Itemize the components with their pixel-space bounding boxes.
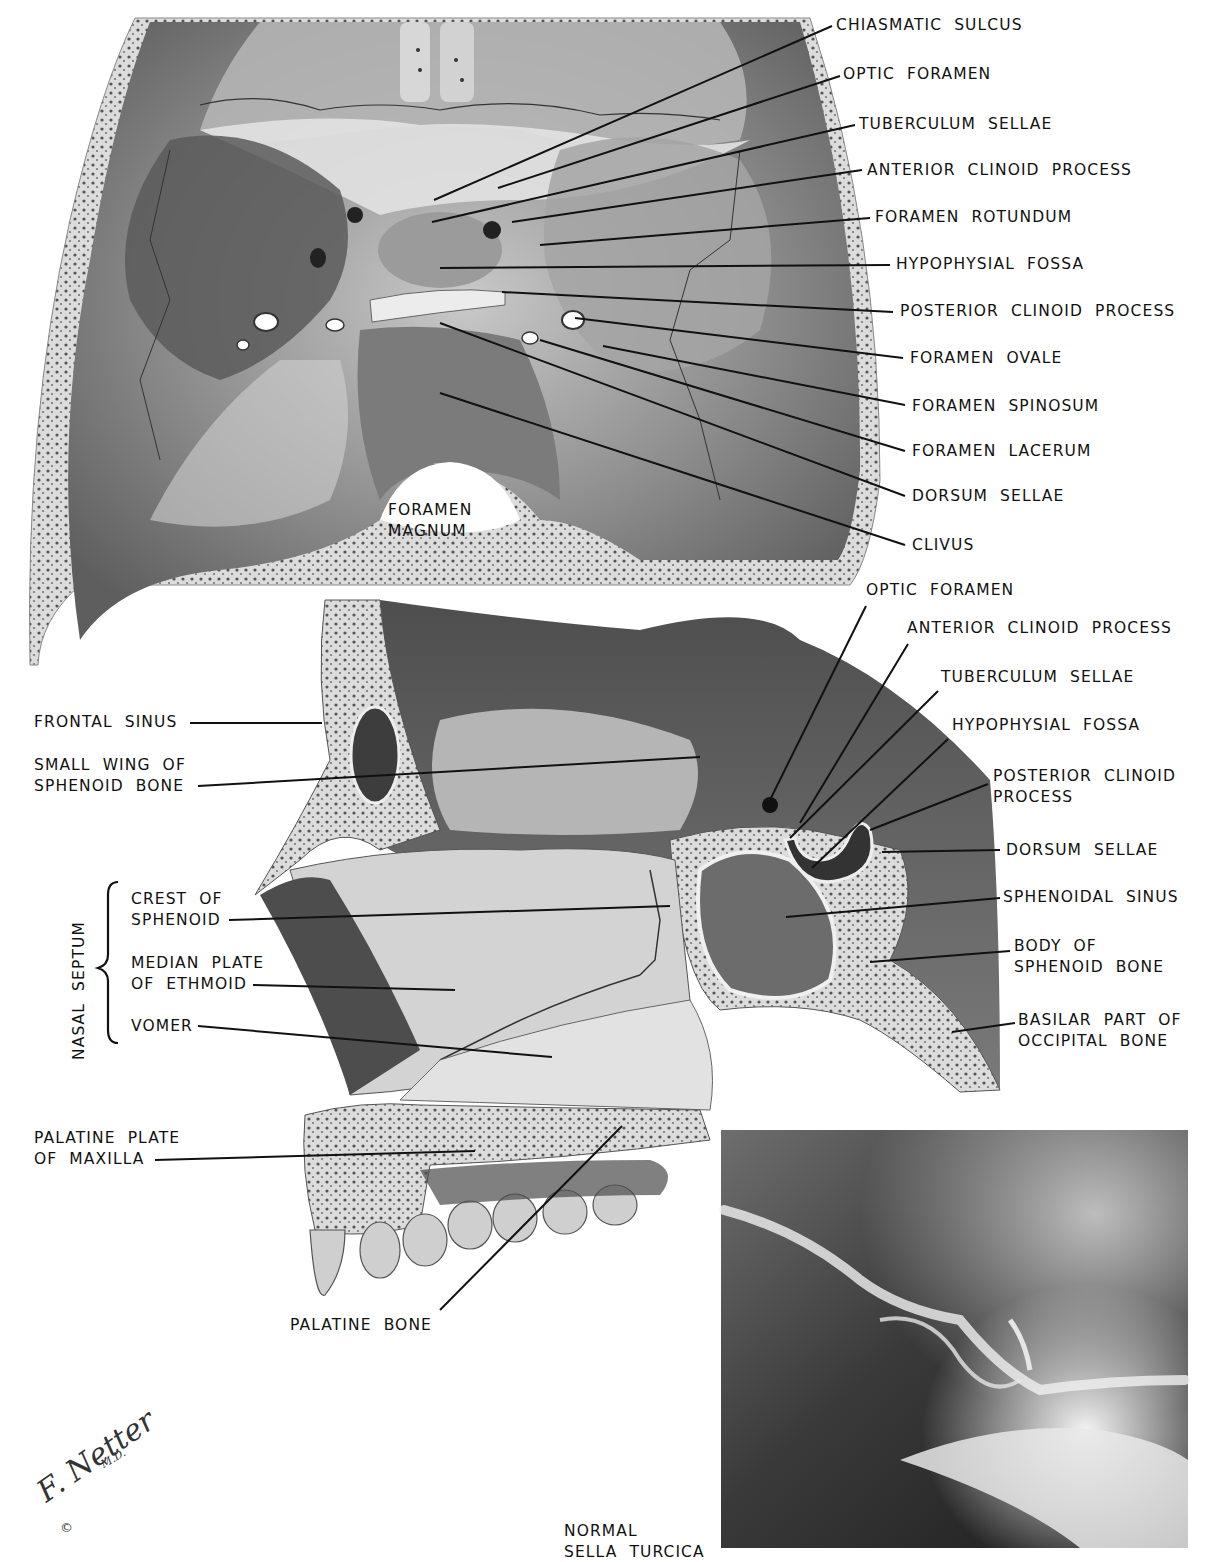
label-hypophysial-fossa: HYPOPHYSIAL FOSSA [896, 254, 1084, 275]
caption-text: SELLA TURCICA [564, 1542, 705, 1562]
label-tuberculum-sellae-2: TUBERCULUM SELLAE [941, 667, 1134, 688]
copyright-symbol: © [60, 1520, 73, 1535]
label-text: HYPOPHYSIAL FOSSA [896, 254, 1084, 275]
label-text: SPHENOID [131, 910, 223, 931]
label-text: TUBERCULUM SELLAE [941, 667, 1134, 688]
label-text: PROCESS [993, 787, 1176, 808]
label-text: FRONTAL SINUS [34, 712, 177, 733]
label-text: CLIVUS [912, 535, 974, 556]
nasal-septum-brace [98, 882, 118, 1043]
label-chiasmatic-sulcus: CHIASMATIC SULCUS [836, 15, 1023, 36]
label-foramen-lacerum: FORAMEN LACERUM [912, 441, 1092, 462]
label-text: POSTERIOR CLINOID [993, 766, 1176, 787]
label-text: FORAMEN LACERUM [912, 441, 1092, 462]
label-sphenoidal-sinus: SPHENOIDAL SINUS [1003, 887, 1179, 908]
label-text: PALATINE PLATE [34, 1128, 180, 1149]
label-text: ANTERIOR CLINOID PROCESS [907, 618, 1172, 639]
label-text: MAGNUM [388, 521, 472, 542]
label-text: ANTERIOR CLINOID PROCESS [867, 160, 1132, 181]
label-text: HYPOPHYSIAL FOSSA [952, 715, 1140, 736]
label-foramen-spinosum: FORAMEN SPINOSUM [912, 396, 1099, 417]
label-text: OPTIC FORAMEN [866, 580, 1014, 601]
label-text: PALATINE BONE [290, 1315, 432, 1336]
label-anterior-clinoid-process-2: ANTERIOR CLINOID PROCESS [907, 618, 1172, 639]
label-text: CHIASMATIC SULCUS [836, 15, 1023, 36]
label-dorsum-sellae: DORSUM SELLAE [912, 486, 1064, 507]
label-posterior-clinoid-process-2: POSTERIOR CLINOIDPROCESS [993, 766, 1176, 808]
label-text: SPHENOIDAL SINUS [1003, 887, 1179, 908]
label-text: OPTIC FORAMEN [843, 64, 991, 85]
label-text: SPHENOID BONE [34, 776, 186, 797]
label-posterior-clinoid-process: POSTERIOR CLINOID PROCESS [900, 301, 1175, 322]
label-text: SPHENOID BONE [1014, 957, 1164, 978]
label-optic-foramen-2: OPTIC FORAMEN [866, 580, 1014, 601]
label-text: FORAMEN SPINOSUM [912, 396, 1099, 417]
label-crest-of-sphenoid: CREST OFSPHENOID [131, 889, 223, 931]
cranial-base-view [30, 18, 881, 665]
label-palatine-bone: PALATINE BONE [290, 1315, 432, 1336]
label-clivus: CLIVUS [912, 535, 974, 556]
label-text: TUBERCULUM SELLAE [859, 114, 1052, 135]
label-text: OF ETHMOID [131, 974, 264, 995]
label-text: OF MAXILLA [34, 1149, 180, 1170]
label-text: SMALL WING OF [34, 755, 186, 776]
label-text: BODY OF [1014, 936, 1164, 957]
label-foramen-rotundum: FORAMEN ROTUNDUM [875, 207, 1072, 228]
label-text: FORAMEN OVALE [910, 348, 1062, 369]
label-text: CREST OF [131, 889, 223, 910]
label-frontal-sinus: FRONTAL SINUS [34, 712, 177, 733]
label-foramen-ovale: FORAMEN OVALE [910, 348, 1062, 369]
label-hypophysial-fossa-2: HYPOPHYSIAL FOSSA [952, 715, 1140, 736]
label-small-wing-of-sphenoid-bone: SMALL WING OFSPHENOID BONE [34, 755, 186, 797]
nasal-septum-group-label: NASAL SEPTUM [70, 921, 88, 1060]
sella-turcica-radiograph [721, 1130, 1188, 1548]
label-text: DORSUM SELLAE [1006, 840, 1158, 861]
caption-text: NORMAL [564, 1521, 705, 1542]
label-anterior-clinoid-process: ANTERIOR CLINOID PROCESS [867, 160, 1132, 181]
label-body-of-sphenoid-bone: BODY OFSPHENOID BONE [1014, 936, 1164, 978]
label-text: DORSUM SELLAE [912, 486, 1064, 507]
label-foramen-magnum: FORAMENMAGNUM [388, 500, 472, 542]
label-vomer: VOMER [131, 1016, 193, 1037]
label-text: OCCIPITAL BONE [1018, 1031, 1182, 1052]
label-tuberculum-sellae: TUBERCULUM SELLAE [859, 114, 1052, 135]
label-median-plate-of-ethmoid: MEDIAN PLATEOF ETHMOID [131, 953, 264, 995]
label-text: POSTERIOR CLINOID PROCESS [900, 301, 1175, 322]
label-text: BASILAR PART OF [1018, 1010, 1182, 1031]
label-basilar-part-of-occipital-bone: BASILAR PART OFOCCIPITAL BONE [1018, 1010, 1182, 1052]
label-text: MEDIAN PLATE [131, 953, 264, 974]
label-text: FORAMEN [388, 500, 472, 521]
label-dorsum-sellae-2: DORSUM SELLAE [1006, 840, 1158, 861]
label-palatine-plate-of-maxilla: PALATINE PLATEOF MAXILLA [34, 1128, 180, 1170]
label-text: FORAMEN ROTUNDUM [875, 207, 1072, 228]
radiograph-caption: NORMALSELLA TURCICA [564, 1521, 705, 1562]
label-text: VOMER [131, 1016, 193, 1037]
label-optic-foramen: OPTIC FORAMEN [843, 64, 991, 85]
